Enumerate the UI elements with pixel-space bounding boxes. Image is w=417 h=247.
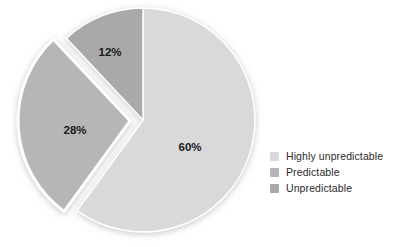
legend-item-label: Unpredictable bbox=[286, 180, 352, 196]
legend-item-highly-unpredictable[interactable]: Highly unpredictable bbox=[270, 148, 415, 164]
legend-item-label: Highly unpredictable bbox=[286, 148, 383, 164]
slice-label-highly-unpredictable: 60% bbox=[178, 141, 201, 153]
legend-item-unpredictable[interactable]: Unpredictable bbox=[270, 180, 415, 196]
pie-chart: 60% 28% 12% Highly unpredictable Predict… bbox=[0, 0, 417, 247]
legend: Highly unpredictable Predictable Unpredi… bbox=[270, 148, 415, 196]
legend-item-predictable[interactable]: Predictable bbox=[270, 164, 415, 180]
legend-item-label: Predictable bbox=[286, 164, 340, 180]
slice-label-predictable: 28% bbox=[63, 124, 86, 136]
slice-label-unpredictable: 12% bbox=[98, 46, 121, 58]
legend-swatch-icon bbox=[270, 184, 279, 193]
pie-slices-group bbox=[18, 8, 255, 232]
pie-chart-canvas: 60% 28% 12% bbox=[0, 0, 417, 247]
legend-swatch-icon bbox=[270, 168, 279, 177]
legend-swatch-icon bbox=[270, 152, 279, 161]
